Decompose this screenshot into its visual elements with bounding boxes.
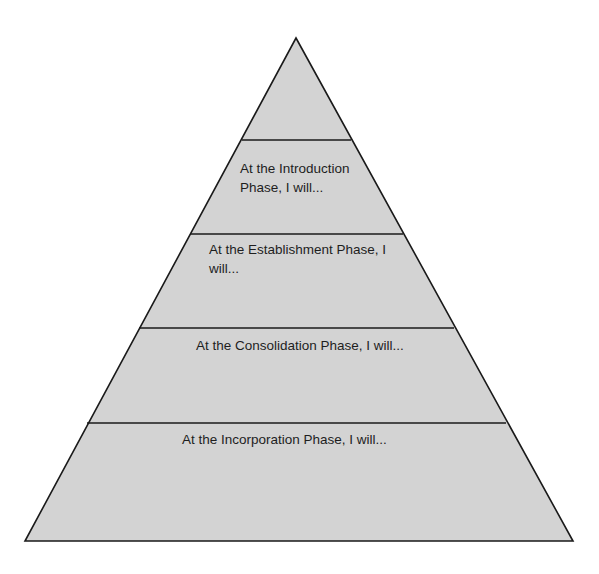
level-label-consolidation: At the Consolidation Phase, I will... — [196, 336, 436, 355]
level-label-establishment: At the Establishment Phase, I will... — [209, 240, 399, 278]
pyramid-diagram — [0, 0, 599, 574]
level-label-introduction: At the Introduction Phase, I will... — [240, 159, 365, 197]
pyramid-shape — [25, 38, 573, 541]
level-label-incorporation: At the Incorporation Phase, I will... — [182, 430, 442, 449]
